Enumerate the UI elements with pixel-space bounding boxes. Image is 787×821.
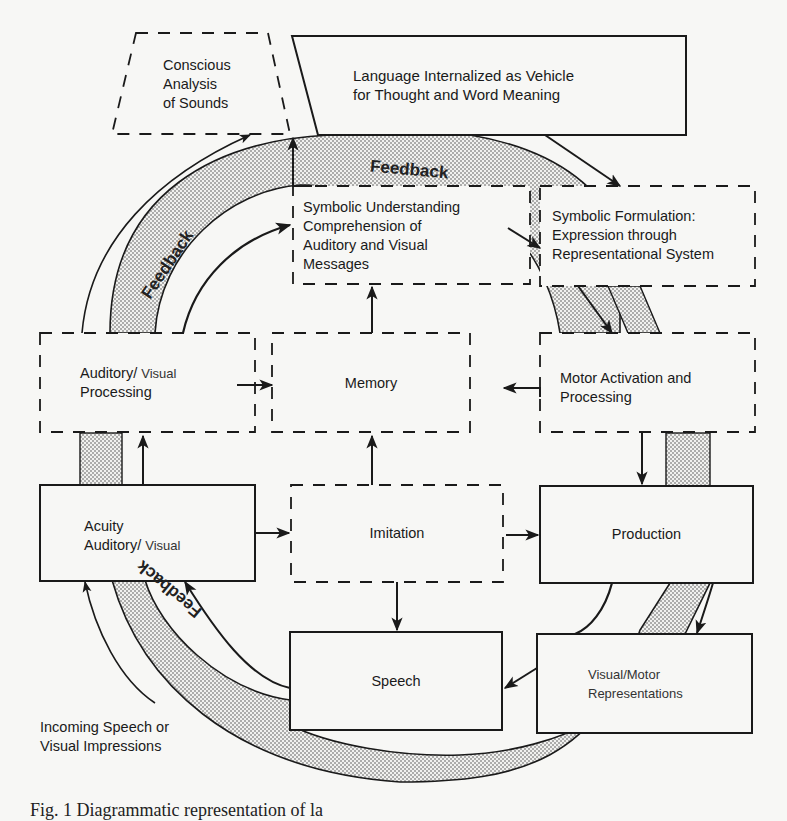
- node-motor-activation: Motor Activation and Processing: [560, 369, 691, 407]
- annotation-incoming-speech: Incoming Speech or Visual Impressions: [40, 718, 169, 756]
- node-acuity: Acuity Auditory/ Visual: [84, 517, 180, 555]
- node-memory: Memory: [272, 374, 470, 393]
- node-imitation: Imitation: [291, 524, 503, 543]
- feedback-band-right-mid: [666, 433, 710, 486]
- arrow-visualmotor-to-speech: [505, 668, 537, 688]
- node-language-internalized: Language Internalized as Vehicle for Tho…: [353, 66, 574, 104]
- node-speech: Speech: [290, 672, 502, 691]
- arrow-processing-to-understanding: [183, 225, 290, 333]
- node-visual-motor: Visual/Motor Representations: [588, 665, 683, 703]
- node-auditory-processing: Auditory/ Visual Processing: [80, 364, 176, 402]
- node-symbolic-formulation: Symbolic Formulation: Expression through…: [552, 207, 714, 264]
- node-symbolic-understanding: Symbolic Understanding Comprehension of …: [303, 198, 460, 274]
- node-conscious-analysis: Conscious Analysis of Sounds: [163, 56, 231, 113]
- figure-caption: Fig. 1 Diagrammatic representation of la: [30, 800, 323, 821]
- arrow-production-arc: [575, 583, 612, 634]
- feedback-band-left-mid: [80, 433, 122, 485]
- node-production: Production: [540, 525, 753, 544]
- arrow-motor-to-memory: [504, 388, 540, 397]
